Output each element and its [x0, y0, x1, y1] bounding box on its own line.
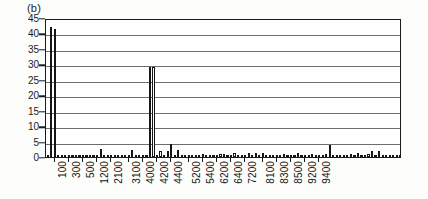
- bar: [350, 154, 352, 157]
- x-axis-tick-labels: 1003005001200210031004000420044005200540…: [45, 161, 401, 199]
- bar: [248, 153, 250, 157]
- bar: [346, 155, 348, 157]
- bar: [167, 151, 169, 157]
- bar: [357, 153, 359, 157]
- y-axis-tick-label: 45: [28, 14, 39, 24]
- bar: [121, 155, 123, 157]
- y-axis-tick-mark: [39, 65, 45, 66]
- y-axis-tick-mark: [39, 157, 45, 158]
- bar: [170, 144, 172, 157]
- bar: [149, 67, 151, 157]
- plot-area: [45, 19, 401, 158]
- bar: [75, 155, 77, 157]
- bar: [396, 155, 398, 157]
- bar-series: [46, 20, 400, 157]
- bar: [181, 155, 183, 157]
- y-axis-tick-labels: 051015202530354045: [15, 19, 42, 158]
- y-axis-tick-mark: [39, 142, 45, 143]
- bar: [322, 155, 324, 157]
- x-axis-tick-label: 4400: [174, 161, 184, 184]
- x-axis-tick-label: 8500: [294, 161, 304, 184]
- x-axis-tick-label: 6400: [234, 161, 244, 184]
- bar: [332, 155, 334, 157]
- bar: [343, 155, 345, 157]
- y-axis-tick-mark: [39, 126, 45, 127]
- y-axis-tick-mark: [39, 96, 45, 97]
- bar: [353, 155, 355, 157]
- bar: [290, 155, 292, 157]
- bar: [286, 155, 288, 157]
- y-axis-tick-label: 20: [28, 91, 39, 101]
- bar: [279, 155, 281, 157]
- bar: [145, 155, 147, 157]
- bar: [283, 154, 285, 157]
- y-axis-tick-label: 15: [28, 107, 39, 117]
- bar: [308, 155, 310, 157]
- bar: [392, 155, 394, 157]
- bar: [241, 155, 243, 157]
- bar: [68, 155, 70, 157]
- bar: [202, 154, 204, 157]
- y-axis-tick-mark: [39, 18, 45, 19]
- bar: [89, 155, 91, 157]
- x-axis-tick-label: 6200: [220, 161, 230, 184]
- bar: [223, 154, 225, 157]
- y-axis-tick-mark: [39, 49, 45, 50]
- x-axis-tick-label: 500: [86, 161, 96, 178]
- bar: [226, 155, 228, 157]
- bar: [156, 155, 158, 157]
- x-axis-tick-label: 300: [72, 161, 82, 178]
- bar: [78, 155, 80, 157]
- bar: [219, 154, 221, 157]
- figure-panel-b: (b) 051015202530354045 10030050012002100…: [0, 0, 428, 199]
- bar: [209, 155, 211, 157]
- x-axis-tick-label: 4000: [146, 161, 156, 184]
- y-axis-tick-label: 10: [28, 122, 39, 132]
- bar: [184, 155, 186, 157]
- bar: [174, 155, 176, 157]
- bar: [233, 153, 235, 157]
- x-axis-tick-label: 8100: [266, 161, 276, 184]
- bar: [364, 155, 366, 157]
- bar: [100, 149, 102, 157]
- y-axis-tick-label: 25: [28, 76, 39, 86]
- x-axis-tick-label: 1200: [100, 161, 110, 184]
- bar: [92, 155, 94, 157]
- bar: [237, 155, 239, 157]
- bar: [212, 155, 214, 157]
- bar: [311, 154, 313, 157]
- bar: [198, 155, 200, 157]
- bar: [339, 155, 341, 157]
- bar: [57, 155, 59, 157]
- bar: [251, 155, 253, 157]
- bar: [329, 145, 331, 157]
- bar: [269, 155, 271, 157]
- bar: [382, 155, 384, 157]
- x-axis-tick-label: 3100: [132, 161, 142, 184]
- bar: [82, 155, 84, 157]
- bar: [315, 155, 317, 157]
- bar: [336, 155, 338, 157]
- bar: [103, 155, 105, 157]
- bar: [276, 155, 278, 157]
- y-axis-tick-mark: [39, 34, 45, 35]
- y-axis-tick-label: 40: [28, 29, 39, 39]
- bar: [47, 155, 49, 157]
- bar: [205, 155, 207, 157]
- x-axis-tick-label: 5400: [206, 161, 216, 184]
- bar: [188, 155, 190, 157]
- bar: [258, 155, 260, 157]
- bar: [300, 155, 302, 157]
- y-axis-tick-label: 30: [28, 60, 39, 70]
- bar: [128, 155, 130, 157]
- bar: [389, 155, 391, 157]
- x-axis-tick-label: 7200: [248, 161, 258, 184]
- bar: [152, 67, 154, 157]
- bar: [138, 155, 140, 157]
- bar: [163, 155, 165, 157]
- x-axis-tick-label: 5200: [192, 161, 202, 184]
- bar: [110, 155, 112, 157]
- bar: [367, 154, 369, 157]
- bar: [131, 150, 133, 157]
- x-axis-tick-label: 4200: [160, 161, 170, 184]
